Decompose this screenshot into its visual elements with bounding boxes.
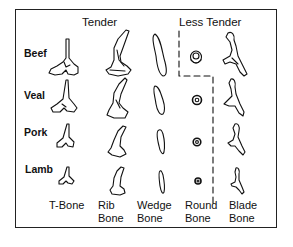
- rib-bone-pork-icon: [108, 126, 126, 157]
- bone-illustrations: [0, 0, 293, 247]
- blade-bone-lamb-icon: [231, 168, 244, 194]
- t-bone-beef-icon: [49, 39, 78, 75]
- rib-bone-veal-icon: [107, 78, 128, 118]
- blade-bone-beef-icon: [223, 32, 247, 76]
- round-bone-veal-icon: [193, 96, 202, 105]
- t-bone-pork-icon: [57, 124, 74, 147]
- t-bone-lamb-icon: [59, 167, 74, 184]
- t-bone-veal-icon: [51, 80, 77, 112]
- round-bone-lamb-icon: [195, 178, 201, 184]
- blade-bone-veal-icon: [224, 79, 244, 116]
- blade-bone-pork-icon: [228, 124, 245, 155]
- round-bone-pork-icon: [193, 138, 201, 146]
- rib-bone-lamb-icon: [110, 167, 125, 195]
- wedge-bone-lamb-icon: [159, 171, 165, 193]
- wedge-bone-pork-icon: [157, 130, 164, 154]
- wedge-bone-beef-icon: [153, 34, 166, 76]
- wedge-bone-veal-icon: [154, 86, 165, 114]
- round-bone-beef-icon: [191, 51, 202, 63]
- rib-bone-beef-icon: [106, 30, 131, 76]
